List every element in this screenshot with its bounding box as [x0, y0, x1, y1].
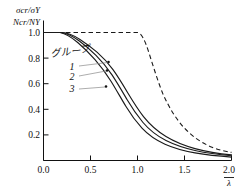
group-label-text: グループ	[50, 43, 92, 59]
x-tick-labels: 0.0 0.5 1.0 1.5 2.0	[38, 165, 236, 175]
y-tick-label-0: 1.0	[28, 28, 40, 38]
y-tick-label-3: 0.4	[28, 105, 40, 115]
y-axis-title: σcr/σY Ncr/NY	[12, 5, 41, 27]
leader-line-1	[79, 63, 108, 67]
y-tick-label-4: 0.2	[28, 130, 40, 140]
y-axis-label-line1: σcr/σY	[16, 5, 41, 15]
curve-label-3: 3	[69, 83, 75, 94]
curve-marker-1	[107, 61, 110, 64]
buckling-curve-figure: σcr/σY Ncr/NY 1.0 0.8 0.6 0.4 0.2 0.0 0.…	[0, 0, 250, 187]
leader-line-2	[79, 71, 106, 76]
curve-marker-3	[105, 85, 108, 88]
y-tick-labels: 1.0 0.8 0.6 0.4 0.2	[28, 28, 40, 140]
x-axis-label: λ	[226, 178, 231, 187]
y-tick-label-2: 0.6	[28, 79, 40, 89]
x-axis-title: λ	[224, 178, 234, 188]
x-tick-label-3: 1.5	[179, 165, 191, 175]
x-tick-label-4: 2.0	[223, 165, 235, 175]
group-annotation: グループ 1 2 3	[50, 43, 92, 94]
x-tick-label-2: 1.0	[132, 165, 144, 175]
curve-marker-2	[106, 69, 109, 72]
y-axis-label-line2: Ncr/NY	[12, 17, 41, 27]
x-tick-label-1: 0.5	[85, 165, 97, 175]
curve-label-2: 2	[70, 71, 75, 82]
leader-line-3	[79, 87, 105, 89]
x-tick-label-0: 0.0	[38, 165, 50, 175]
chart-svg: σcr/σY Ncr/NY 1.0 0.8 0.6 0.4 0.2 0.0 0.…	[0, 0, 250, 187]
y-tick-label-1: 0.8	[28, 54, 40, 64]
